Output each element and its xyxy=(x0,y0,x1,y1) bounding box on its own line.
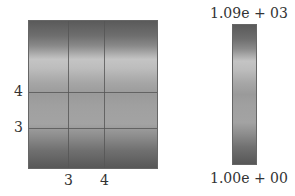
colorbar-min-label: 1.00e + 00 xyxy=(210,171,288,185)
gridline-x-3 xyxy=(68,21,69,168)
x-tick-3: 3 xyxy=(64,173,73,187)
gridline-y-4 xyxy=(29,92,157,93)
gridline-y-3 xyxy=(29,128,157,129)
gridline-x-4 xyxy=(104,21,105,168)
colorbar xyxy=(232,24,257,165)
colorbar-max-label: 1.09e + 03 xyxy=(210,6,288,20)
y-tick-4: 4 xyxy=(14,84,23,98)
x-tick-4: 4 xyxy=(100,173,109,187)
heatmap-plot xyxy=(28,20,158,169)
y-tick-3: 3 xyxy=(14,120,23,134)
